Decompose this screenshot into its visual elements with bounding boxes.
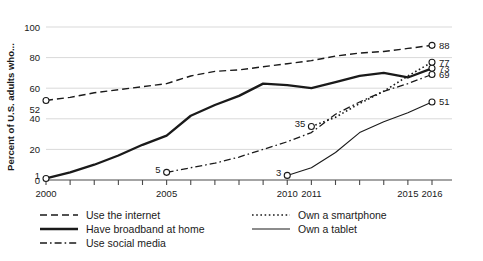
start-marker-3 xyxy=(308,123,314,129)
x-axis-tick-labels: 200020052010201120152016 xyxy=(35,188,442,199)
start-marker-2 xyxy=(164,169,170,175)
x-tick-2010: 2010 xyxy=(277,188,298,199)
x-axis xyxy=(46,180,452,185)
x-tick-2000: 2000 xyxy=(35,188,56,199)
chart-legend: Use the internetHave broadband at homeUs… xyxy=(40,209,387,249)
y-tick-20: 20 xyxy=(29,144,40,155)
series-line-0 xyxy=(46,45,432,100)
legend-label-0: Use the internet xyxy=(86,209,160,221)
end-label-2: 69 xyxy=(439,69,450,80)
end-marker-1 xyxy=(429,65,435,71)
legend-label-1: Own a smartphone xyxy=(298,209,387,221)
x-tick-2011: 2011 xyxy=(301,188,321,199)
grid-lines xyxy=(46,27,452,149)
start-label-1: 1 xyxy=(35,170,40,181)
y-tick-100: 100 xyxy=(24,22,40,33)
chart-figure: 020406080100 200020052010201120152016 Pe… xyxy=(0,0,483,261)
start-marker-1 xyxy=(43,175,49,181)
end-label-4: 51 xyxy=(439,96,450,107)
legend-label-2: Have broadband at home xyxy=(86,223,205,235)
end-marker-3 xyxy=(429,59,435,65)
start-label-3: 35 xyxy=(295,118,306,129)
y-axis-label: Percent of U.S. adults who... xyxy=(5,43,16,171)
series-value-labels: 52881735693577351 xyxy=(29,40,449,182)
start-label-4: 3 xyxy=(276,167,281,178)
start-label-0: 52 xyxy=(29,104,40,115)
start-marker-0 xyxy=(43,97,49,103)
y-tick-80: 80 xyxy=(29,52,40,63)
legend-label-3: Own a tablet xyxy=(298,223,357,235)
series-line-4 xyxy=(287,102,432,175)
x-tick-2005: 2005 xyxy=(156,188,177,199)
end-marker-4 xyxy=(429,99,435,105)
series-line-3 xyxy=(311,62,432,126)
end-marker-0 xyxy=(429,42,435,48)
end-label-0: 88 xyxy=(439,40,450,51)
end-label-3: 77 xyxy=(439,57,450,68)
x-tick-2016: 2016 xyxy=(421,188,442,199)
y-tick-60: 60 xyxy=(29,83,40,94)
series-lines xyxy=(46,45,432,178)
line-chart: 020406080100 200020052010201120152016 Pe… xyxy=(0,0,483,261)
series-line-1 xyxy=(46,68,432,178)
end-marker-2 xyxy=(429,71,435,77)
start-label-2: 5 xyxy=(155,164,160,175)
legend-label-4: Use social media xyxy=(86,237,166,249)
start-marker-4 xyxy=(284,172,290,178)
x-tick-2015: 2015 xyxy=(397,188,418,199)
